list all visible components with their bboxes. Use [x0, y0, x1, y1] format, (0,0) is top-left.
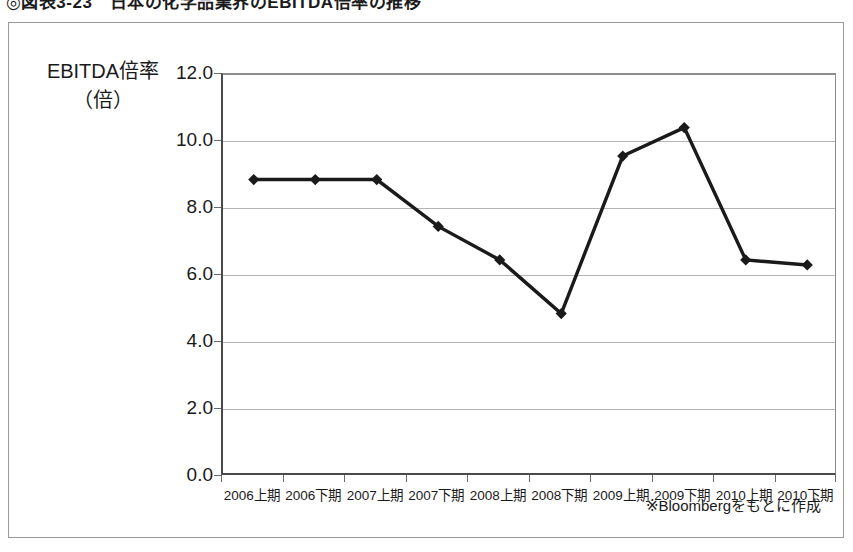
- series-polyline: [254, 128, 808, 314]
- x-tick-label: 2006下期: [285, 484, 341, 504]
- x-axis-ticks: [221, 475, 836, 482]
- y-axis-ticks: 0.02.04.06.08.010.012.0: [9, 73, 221, 475]
- x-tick-mark: [283, 475, 284, 482]
- y-tick-label: 10.0: [176, 129, 213, 151]
- y-tick-label: 4.0: [187, 330, 213, 352]
- y-tick-label: 2.0: [187, 397, 213, 419]
- plot-area: [221, 73, 836, 475]
- x-tick-label: 2009上期: [593, 484, 649, 504]
- x-tick-mark: [344, 475, 345, 482]
- data-point-marker: [740, 254, 751, 265]
- x-tick-mark: [835, 475, 836, 482]
- source-note: ※Bloombergをもとに作成: [646, 494, 821, 515]
- data-point-marker: [248, 174, 259, 185]
- x-tick-mark: [529, 475, 530, 482]
- y-tick-label: 0.0: [187, 464, 213, 486]
- data-point-marker: [679, 122, 690, 133]
- data-point-marker: [802, 259, 813, 270]
- x-tick-mark: [713, 475, 714, 482]
- x-tick-mark: [406, 475, 407, 482]
- x-tick-mark: [652, 475, 653, 482]
- x-tick-label: 2007下期: [408, 484, 464, 504]
- x-tick-mark: [467, 475, 468, 482]
- y-tick-label: 12.0: [176, 62, 213, 84]
- figure-title: ◎図表3-23 日本の化学品業界のEBITDA倍率の推移: [6, 0, 421, 13]
- series-line: [223, 74, 838, 476]
- chart-panel: EBITDA倍率 （倍） 0.02.04.06.08.010.012.0 200…: [8, 22, 844, 538]
- x-tick-label: 2006上期: [224, 484, 280, 504]
- x-tick-label: 2008上期: [470, 484, 526, 504]
- x-tick-label: 2007上期: [347, 484, 403, 504]
- y-tick-label: 8.0: [187, 196, 213, 218]
- data-point-marker: [310, 174, 321, 185]
- x-tick-mark: [775, 475, 776, 482]
- x-tick-mark: [590, 475, 591, 482]
- x-tick-label: 2008下期: [531, 484, 587, 504]
- x-tick-mark: [221, 475, 222, 482]
- data-point-marker: [617, 150, 628, 161]
- y-tick-label: 6.0: [187, 263, 213, 285]
